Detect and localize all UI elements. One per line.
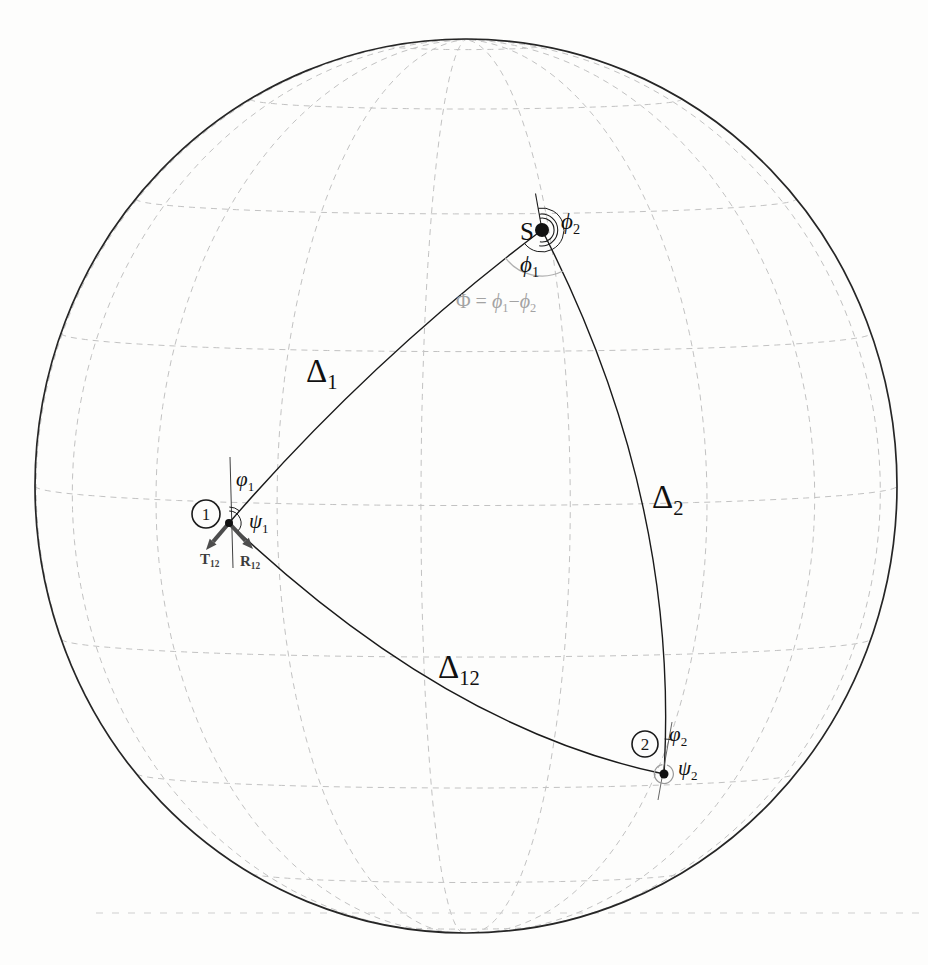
label-varphi2-station2: φ2: [669, 722, 687, 749]
label-phi1-source: ϕ1: [520, 252, 539, 280]
graticule-parallel: [391, 45, 541, 49]
station1-dot: [225, 519, 233, 527]
station1-meridian-line: [230, 457, 233, 568]
graticule-meridian: [72, 39, 466, 929]
sphere-rim: [35, 39, 897, 933]
label-T12: T12: [200, 551, 220, 569]
source-dot: [535, 223, 549, 237]
graticule-meridian: [466, 39, 570, 932]
graticule-meridian: [156, 39, 466, 932]
label-Delta12: Δ12: [438, 649, 480, 689]
arc-delta1: [229, 230, 542, 523]
varphi1-station1-arc: [229, 507, 239, 511]
station2-dot: [660, 770, 669, 779]
graticule-meridian: [421, 39, 466, 932]
label-psi1-station1: ψ1: [249, 509, 269, 536]
label-Phi-equation: Φ = ϕ1−ϕ2: [456, 290, 536, 315]
graticule-parallel: [252, 874, 681, 883]
graticule-parallel: [136, 198, 796, 214]
label-source-S: S: [520, 218, 534, 245]
station1-marker-digit: 1: [202, 505, 211, 524]
graticule-parallel: [394, 927, 538, 930]
graticule-parallel: [251, 99, 682, 109]
label-psi2-station2: ψ2: [678, 756, 698, 783]
graticule-meridian: [277, 39, 466, 932]
scanned-figure-page: 12Sϕ2ϕ1Φ = ϕ1−ϕ2Δ1Δ2Δ12φ1ψ1T12R12φ2ψ2: [0, 0, 928, 965]
station2-marker-digit: 2: [641, 735, 650, 754]
graticule-meridian: [466, 39, 815, 931]
label-Delta1: Δ1: [306, 353, 337, 393]
label-Delta2: Δ2: [652, 479, 683, 519]
graticule-parallel: [35, 486, 897, 506]
graticule-parallel: [61, 333, 871, 351]
label-varphi1-station1: φ1: [236, 467, 254, 494]
sphere-triangle-diagram: 12Sϕ2ϕ1Φ = ϕ1−ϕ2Δ1Δ2Δ12φ1ψ1T12R12φ2ψ2: [0, 0, 928, 965]
graticule-meridian: [36, 39, 466, 857]
graticule-parallel: [61, 639, 871, 657]
label-R12: R12: [240, 553, 260, 571]
